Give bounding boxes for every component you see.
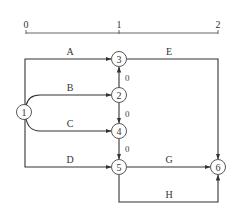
- scale-tick-1: 1: [117, 19, 122, 30]
- edge-label-d: D: [66, 154, 73, 165]
- scale-tick-0: 0: [24, 19, 29, 30]
- node-1: 1: [17, 105, 32, 120]
- network-diagram: 0 1 2 A B C D E G H 0 0 0: [0, 0, 240, 218]
- node-4: 4: [112, 124, 127, 139]
- edge-label-g: G: [165, 154, 172, 165]
- dummy-label-2-4: 0: [125, 109, 130, 119]
- dummy-label-4-5: 0: [125, 144, 130, 154]
- nodes: 1 2 3 4 5 6: [17, 52, 226, 175]
- node-label-4: 4: [117, 126, 122, 137]
- edge-label-b: B: [67, 82, 74, 93]
- edge-label-c: C: [67, 118, 74, 129]
- node-2: 2: [112, 88, 127, 103]
- dummy-label-2-3: 0: [125, 73, 130, 83]
- edge-label-e: E: [166, 46, 172, 57]
- edge-label-a: A: [66, 46, 74, 57]
- node-3: 3: [112, 52, 127, 67]
- scale-tick-2: 2: [216, 19, 221, 30]
- node-label-2: 2: [117, 90, 122, 101]
- time-scale: 0 1 2: [24, 19, 221, 34]
- node-label-3: 3: [117, 54, 122, 65]
- node-label-1: 1: [22, 107, 27, 118]
- edge-e: [127, 59, 218, 159]
- node-6: 6: [211, 160, 226, 175]
- edge-label-h: H: [165, 189, 172, 200]
- node-label-6: 6: [216, 162, 221, 173]
- edge-b: [26, 95, 111, 106]
- node-5: 5: [112, 160, 127, 175]
- node-label-5: 5: [117, 162, 122, 173]
